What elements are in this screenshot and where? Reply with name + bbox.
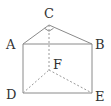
edge-cb — [49, 25, 92, 44]
edge-ac — [23, 25, 49, 44]
prism-svg: C A B F D E — [0, 0, 111, 106]
label-a: A — [5, 37, 16, 52]
label-e: E — [95, 89, 105, 104]
prism-diagram: C A B F D E — [0, 0, 111, 106]
label-d: D — [6, 87, 16, 102]
label-c: C — [44, 6, 54, 21]
label-b: B — [95, 37, 105, 52]
edge-df-hidden — [23, 70, 49, 93]
edge-fe-hidden — [49, 70, 92, 93]
label-f: F — [53, 57, 62, 72]
